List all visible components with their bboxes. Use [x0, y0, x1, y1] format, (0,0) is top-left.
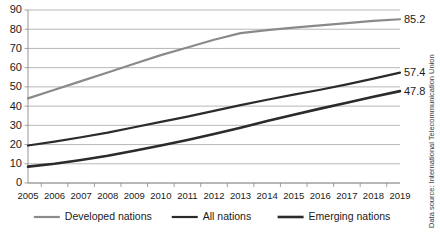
series-line-2	[28, 91, 400, 167]
x-tick-label: 2011	[177, 190, 197, 201]
axes	[28, 10, 400, 183]
x-axis-tick-labels: 2005200620072008200920102011201220132014…	[17, 183, 410, 201]
x-tick-label: 2010	[150, 190, 171, 201]
x-tick-label: 2007	[71, 190, 92, 201]
x-tick-label: 2017	[336, 190, 357, 201]
x-tick-label: 2012	[203, 190, 224, 201]
y-axis-tick-labels: 0102030405060708090	[10, 3, 28, 188]
x-tick-label: 2008	[97, 190, 118, 201]
y-tick-label: 0	[16, 176, 22, 188]
x-tick-label: 2018	[363, 190, 384, 201]
y-tick-label: 10	[10, 157, 22, 169]
line-chart: 0102030405060708090 20052006200720082009…	[0, 0, 440, 232]
y-tick-label: 70	[10, 42, 22, 54]
chart-canvas: 0102030405060708090 20052006200720082009…	[0, 0, 440, 232]
series-end-labels: 85.257.447.8	[404, 13, 425, 97]
x-tick-label: 2006	[44, 190, 65, 201]
y-tick-label: 40	[10, 100, 22, 112]
x-tick-label: 2019	[389, 190, 410, 201]
series-end-label-0: 85.2	[404, 13, 425, 25]
y-tick-label: 20	[10, 138, 22, 150]
x-tick-label: 2009	[124, 190, 145, 201]
y-tick-label: 80	[10, 23, 22, 35]
legend-label-1: All nations	[203, 210, 251, 222]
y-tick-label: 90	[10, 3, 22, 15]
y-tick-label: 50	[10, 80, 22, 92]
x-tick-label: 2015	[283, 190, 304, 201]
legend-label-0: Developed nations	[65, 210, 152, 222]
y-tick-label: 60	[10, 61, 22, 73]
series-end-label-2: 47.8	[404, 85, 425, 97]
x-tick-label: 2016	[310, 190, 331, 201]
chart-legend: Developed nationsAll nationsEmerging nat…	[34, 210, 391, 222]
gridlines	[28, 10, 400, 183]
x-tick-label: 2014	[257, 190, 278, 201]
source-note: Data source: International Telecommunica…	[427, 54, 436, 228]
source-text: Data source: International Telecommunica…	[427, 54, 436, 228]
series-end-label-1: 57.4	[404, 66, 425, 78]
legend-label-2: Emerging nations	[309, 210, 391, 222]
x-tick-label: 2005	[17, 190, 38, 201]
y-tick-label: 30	[10, 119, 22, 131]
x-tick-label: 2013	[230, 190, 251, 201]
